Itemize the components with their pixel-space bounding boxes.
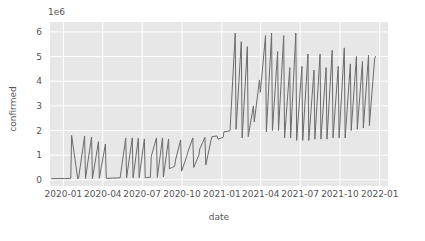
y-axis-exponent-label: 1e6	[48, 8, 65, 17]
y-tick-label: 3	[36, 101, 42, 110]
y-tick-label: 2	[36, 126, 42, 135]
x-tick-label: 2020-01	[45, 190, 83, 199]
x-tick-label: 2020-07	[123, 190, 161, 199]
x-tick-label: 2020-04	[84, 190, 122, 199]
x-axis-title: date	[50, 212, 388, 222]
y-tick-label: 5	[36, 52, 42, 61]
x-tick-label: 2021-04	[242, 190, 280, 199]
y-tick-label: 6	[36, 27, 42, 36]
y-axis-tick-labels: 0123456	[0, 22, 46, 186]
chart-figure: 1e6 confirmed 0123456 2020-012020-042020…	[0, 0, 425, 241]
gridlines	[50, 22, 388, 186]
chart-canvas	[50, 22, 388, 186]
x-axis-tick-labels: 2020-012020-042020-072020-102021-012021-…	[50, 190, 388, 204]
x-tick-label: 2021-10	[321, 190, 359, 199]
x-tick-label: 2022-01	[361, 190, 399, 199]
y-tick-label: 4	[36, 77, 42, 86]
plot-area	[50, 22, 388, 186]
x-tick-label: 2021-01	[203, 190, 241, 199]
y-tick-label: 1	[36, 151, 42, 160]
x-tick-label: 2020-10	[163, 190, 201, 199]
x-tick-label: 2021-07	[281, 190, 319, 199]
y-tick-label: 0	[36, 175, 42, 184]
